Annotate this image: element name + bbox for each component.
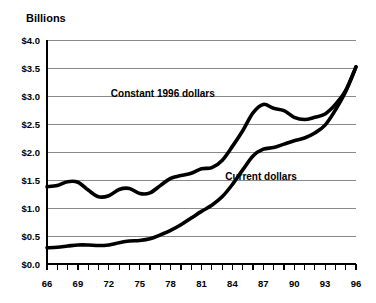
xtick-marks-group xyxy=(47,264,356,270)
ytick-label: $4.0 xyxy=(22,35,41,46)
chart-container: $4.0$3.5$3.0$2.5$2.0$1.5$1.0$0.5$0.0 666… xyxy=(0,0,376,303)
line-chart: $4.0$3.5$3.0$2.5$2.0$1.5$1.0$0.5$0.0 666… xyxy=(0,0,376,303)
ytick-label: $1.5 xyxy=(22,175,41,186)
series-line xyxy=(47,67,356,197)
xtick-label: 72 xyxy=(104,278,115,289)
ytick-label: $0.0 xyxy=(22,259,41,270)
xtick-label: 96 xyxy=(351,278,362,289)
ytick-label: $3.5 xyxy=(22,63,41,74)
xtick-labels-group: 6669727578818487909396 xyxy=(42,278,362,289)
xtick-label: 75 xyxy=(134,278,145,289)
y-axis-title: Billions xyxy=(26,12,66,24)
ytick-label: $0.5 xyxy=(22,231,41,242)
xtick-label: 84 xyxy=(227,278,238,289)
ytick-label: $3.0 xyxy=(22,91,41,102)
ytick-label: $1.0 xyxy=(22,203,41,214)
xtick-label: 69 xyxy=(73,278,84,289)
xtick-label: 81 xyxy=(196,278,207,289)
xtick-label: 87 xyxy=(258,278,269,289)
gridlines-group xyxy=(47,40,356,236)
ytick-label: $2.5 xyxy=(22,119,41,130)
ytick-label: $2.0 xyxy=(22,147,41,158)
series-annotation: Constant 1996 dollars xyxy=(111,88,215,99)
xtick-label: 90 xyxy=(289,278,300,289)
xtick-label: 93 xyxy=(320,278,331,289)
xtick-label: 66 xyxy=(42,278,53,289)
ytick-labels-group: $4.0$3.5$3.0$2.5$2.0$1.5$1.0$0.5$0.0 xyxy=(22,35,41,270)
xtick-label: 78 xyxy=(165,278,176,289)
series-annotation: Current dollars xyxy=(225,171,297,182)
